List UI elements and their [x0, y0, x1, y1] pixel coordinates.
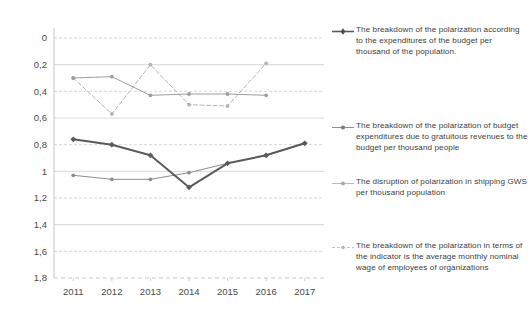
chart-legend: The breakdown of the polarization accord…: [332, 24, 530, 312]
svg-text:2015: 2015: [217, 286, 238, 297]
svg-text:0: 0: [42, 32, 47, 43]
legend-label-series-1: The breakdown of the polarization accord…: [354, 24, 528, 58]
svg-text:0,6: 0,6: [34, 112, 47, 123]
svg-text:2014: 2014: [178, 286, 199, 297]
svg-text:0,2: 0,2: [34, 59, 47, 70]
svg-text:1,8: 1,8: [34, 272, 47, 283]
svg-text:2017: 2017: [294, 286, 315, 297]
chart-svg: 00,20,40,60,811,21,41,61,8 2011201220132…: [18, 14, 330, 310]
legend-label-series-2: The breakdown of the polarization of bud…: [354, 120, 528, 154]
svg-text:2011: 2011: [63, 286, 83, 297]
y-axis-tick-labels: 00,20,40,60,811,21,41,61,8: [34, 32, 47, 283]
legend-key-series-4-icon: [332, 242, 354, 253]
svg-text:1,4: 1,4: [34, 219, 47, 230]
svg-text:1,6: 1,6: [34, 246, 47, 257]
legend-item-shipping-gws[interactable]: The disruption of polarization in shippi…: [332, 176, 528, 198]
legend-item-expenditures-per-thousand-population[interactable]: The breakdown of the polarization accord…: [332, 24, 528, 58]
gridlines: [54, 38, 324, 281]
svg-text:1,2: 1,2: [34, 192, 47, 203]
svg-text:0,4: 0,4: [34, 86, 47, 97]
legend-key-series-2-icon: [332, 122, 354, 133]
svg-text:2013: 2013: [140, 286, 161, 297]
x-axis-tick-labels: 2011201220132014201520162017: [63, 286, 315, 297]
svg-text:0,8: 0,8: [34, 139, 47, 150]
chart-screenshot: 00,20,40,60,811,21,41,61,8 2011201220132…: [0, 0, 532, 318]
legend-label-series-4: The breakdown of the polarization in ter…: [354, 240, 528, 274]
line-chart-plot-area: 00,20,40,60,811,21,41,61,8 2011201220132…: [18, 14, 330, 310]
svg-text:2016: 2016: [256, 286, 277, 297]
data-series-group: [70, 61, 307, 190]
legend-key-series-3-icon: [332, 178, 354, 189]
legend-key-series-1-icon: [332, 26, 354, 37]
legend-item-gratuitous-revenues[interactable]: The breakdown of the polarization of bud…: [332, 120, 528, 154]
svg-text:2012: 2012: [101, 286, 122, 297]
legend-item-average-monthly-nominal-wage[interactable]: The breakdown of the polarization in ter…: [332, 240, 528, 274]
svg-text:1: 1: [42, 166, 47, 177]
legend-label-series-3: The disruption of polarization in shippi…: [354, 176, 528, 198]
